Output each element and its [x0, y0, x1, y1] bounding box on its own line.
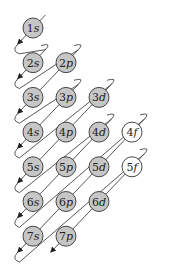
orbital-label: 4p [59, 126, 73, 139]
orbital-label: 7s [27, 230, 40, 243]
orbital-label: 6s [27, 196, 40, 209]
orbital-label: 5f [126, 161, 139, 174]
orbital-label: 3d [92, 91, 106, 104]
orbital-2p: 2p [56, 53, 76, 73]
orbital-label: 5p [59, 161, 73, 174]
orbital-label: 2s [27, 57, 40, 70]
orbital-4f: 4f [122, 122, 142, 142]
orbital-label: 1s [27, 22, 40, 35]
orbital-7p: 7p [56, 226, 76, 246]
aufbau-diagram: 1s2s2p3s3p3d4s4p4d4f5s5p5d5f6s6p6d7s7p [0, 0, 177, 279]
orbital-4p: 4p [56, 122, 76, 142]
orbital-label: 4d [92, 126, 106, 139]
orbital-1s: 1s [23, 18, 43, 38]
orbital-5d: 5d [89, 157, 109, 177]
orbital-label: 6p [59, 196, 73, 209]
orbital-5s: 5s [23, 157, 43, 177]
orbital-3s: 3s [23, 87, 43, 107]
orbital-6d: 6d [89, 192, 109, 212]
orbital-3d: 3d [89, 87, 109, 107]
orbital-label: 2p [59, 57, 73, 70]
orbital-6p: 6p [56, 192, 76, 212]
orbital-5p: 5p [56, 157, 76, 177]
orbital-label: 3p [59, 91, 73, 104]
orbital-6s: 6s [23, 192, 43, 212]
orbital-circles: 1s2s2p3s3p3d4s4p4d4f5s5p5d5f6s6p6d7s7p [23, 18, 142, 246]
orbital-7s: 7s [23, 226, 43, 246]
orbital-2s: 2s [23, 53, 43, 73]
orbital-label: 6d [92, 196, 106, 209]
orbital-label: 4f [126, 126, 139, 139]
orbital-4d: 4d [89, 122, 109, 142]
orbital-label: 5s [27, 161, 40, 174]
orbital-3p: 3p [56, 87, 76, 107]
orbital-label: 4s [27, 126, 40, 139]
orbital-5f: 5f [122, 157, 142, 177]
orbital-4s: 4s [23, 122, 43, 142]
orbital-label: 7p [59, 230, 73, 243]
orbital-label: 3s [27, 91, 40, 104]
orbital-label: 5d [92, 161, 106, 174]
